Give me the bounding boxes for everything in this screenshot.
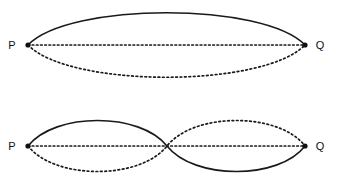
label-p-panel-2: P — [8, 140, 15, 152]
label-q-panel-2: Q — [316, 140, 325, 152]
endpoint-dot-q-2 — [302, 143, 307, 148]
wave-diagram-svg: P Q P Q — [0, 0, 337, 188]
endpoint-dot-p-2 — [25, 143, 30, 148]
endpoint-dot-p-1 — [25, 42, 30, 47]
label-p-panel-1: P — [8, 39, 15, 51]
figure-background — [0, 0, 337, 188]
label-q-panel-1: Q — [316, 39, 325, 51]
standing-wave-figure: P Q P Q — [0, 0, 337, 188]
endpoint-dot-q-1 — [302, 42, 307, 47]
